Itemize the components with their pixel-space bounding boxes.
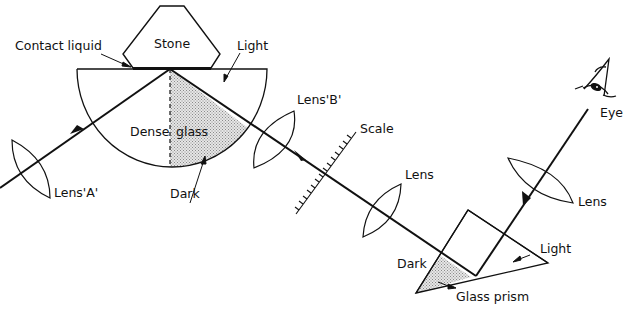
label-light-top: Light xyxy=(237,38,268,53)
label-lens-b: Lens'B' xyxy=(297,92,341,107)
label-scale: Scale xyxy=(360,121,394,136)
label-lens-mid: Lens xyxy=(405,167,434,182)
label-contact-liquid: Contact liquid xyxy=(15,38,102,53)
pointer-arrows xyxy=(101,53,530,289)
scale xyxy=(295,132,356,214)
label-eye: Eye xyxy=(600,105,623,120)
dense-glass-hemisphere xyxy=(77,69,267,167)
label-light-prism: Light xyxy=(540,241,571,256)
lens-mid xyxy=(363,184,401,237)
label-glass: glass xyxy=(176,124,208,139)
lens-a xyxy=(12,140,50,198)
refractometer-diagram: Stone Contact liquid Light Dense glass D… xyxy=(0,0,638,311)
label-dense: Dense xyxy=(130,124,170,139)
label-glass-prism: Glass prism xyxy=(456,289,529,304)
eye-icon xyxy=(575,59,616,97)
label-dark-prism: Dark xyxy=(397,256,427,271)
glass-prism xyxy=(416,210,548,293)
label-lens-eye: Lens xyxy=(578,194,607,209)
label-stone: Stone xyxy=(154,36,190,51)
label-lens-a: Lens'A' xyxy=(54,185,98,200)
label-dark-top: Dark xyxy=(170,186,200,201)
